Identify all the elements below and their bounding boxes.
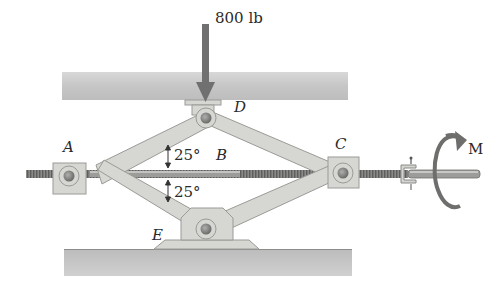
pin-D [201,113,212,124]
ground-beam [64,249,352,276]
point-label-E: E [152,228,163,243]
angle-label-lower: 25° [174,185,201,200]
pin-A [64,171,75,182]
scissor-jack-diagram: 800 lb A B C D E 25° 25° M [0,0,503,286]
lead-screw [26,170,480,178]
point-label-A: A [63,140,74,155]
moment-arrow-icon [435,131,467,207]
point-label-B: B [216,148,227,163]
pin-E [201,224,212,235]
pin-C [338,168,349,179]
point-label-C: C [335,137,346,152]
point-label-D: D [234,100,246,115]
diagram-canvas [0,0,503,286]
moment-label: M [468,142,483,157]
base-plate [154,240,259,249]
load-label: 800 lb [215,11,263,26]
angle-label-upper: 25° [174,148,201,163]
